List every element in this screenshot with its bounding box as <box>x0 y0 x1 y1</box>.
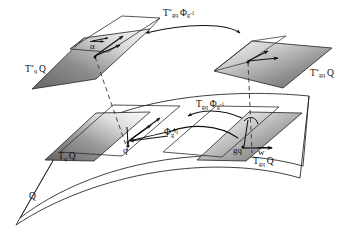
label-covector-alpha: α <box>90 41 95 51</box>
label-point-gq: gq <box>233 146 242 155</box>
label-tangent-space-gq: TgqQ <box>253 157 274 167</box>
label-base-map: Φg-1 <box>164 128 178 138</box>
label-manifold-q: Q <box>29 192 36 202</box>
geometry-diagram: T*qQ T*gqQ T*gqΦg-1 TgqΦg-1 Φg-1 TqQ Tgq… <box>0 0 349 233</box>
label-cotangent-space-gq: T*gqQ <box>310 68 334 79</box>
cotangent-plane-q <box>32 16 160 89</box>
tangent-lift-arrow <box>188 111 242 118</box>
label-vector-w: w <box>258 147 265 157</box>
label-cotangent-lift-map: T*gqΦg-1 <box>163 8 194 19</box>
cotangent-plane-gq <box>214 36 332 88</box>
label-cotangent-space-q: T*qQ <box>25 64 46 75</box>
cotangent-lift-arrow <box>146 25 240 33</box>
label-tangent-space-q: TqQ <box>58 152 76 162</box>
label-point-q: q <box>123 146 128 155</box>
diagram-canvas <box>0 0 349 233</box>
label-tangent-lift-map: TgqΦg-1 <box>196 100 224 110</box>
